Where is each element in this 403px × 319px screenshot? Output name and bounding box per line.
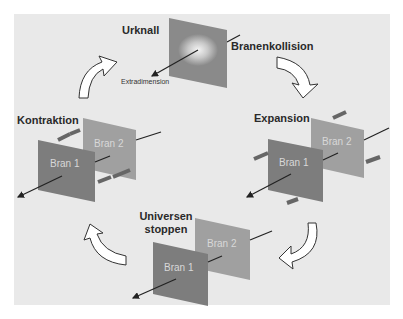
stage-label-universen-stoppen: Universen stoppen <box>136 210 196 236</box>
expansion-bran2-label: Bran 2 <box>322 136 351 147</box>
stage-label-branenkollision: Branenkollision <box>231 40 314 53</box>
universen-bran2-label: Bran 2 <box>207 238 236 249</box>
expansion-bran1-label: Bran 1 <box>279 157 308 168</box>
kontraktion-bran1-label: Bran 1 <box>50 158 79 169</box>
stage-sublabel-extradimension: Extradimension <box>121 78 169 85</box>
cycle-arrow-branenkollision-to-expansion <box>277 57 318 98</box>
universen-bran1-label: Bran 1 <box>164 262 193 273</box>
stage-label-urknall: Urknall <box>122 24 159 37</box>
expansion-branes <box>247 112 389 203</box>
kontraktion-bran2-label: Bran 2 <box>94 138 123 149</box>
universen-line1: Universen <box>136 210 196 223</box>
kontraktion-branes <box>18 118 161 202</box>
cycle-arrow-expansion-to-universen <box>279 223 317 269</box>
cycle-arrow-universen-to-kontraktion <box>84 224 126 265</box>
stage-label-kontraktion: Kontraktion <box>17 114 79 127</box>
stage-label-expansion: Expansion <box>254 112 310 125</box>
universen-line2: stoppen <box>136 223 196 236</box>
cycle-arrow-kontraktion-to-urknall <box>79 56 117 98</box>
